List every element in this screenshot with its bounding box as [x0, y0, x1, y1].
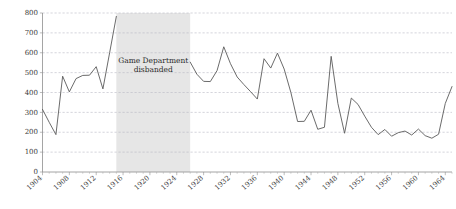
y-tick-label-300: 300: [25, 109, 38, 117]
x-tick-label-1928: 1928: [186, 174, 205, 192]
line-chart: 0100200300400500600700800 19041908191219…: [0, 0, 456, 209]
x-tick-label-1924: 1924: [159, 174, 178, 192]
y-axis-tick-labels: 0100200300400500600700800: [25, 9, 38, 176]
x-tick-label-1936: 1936: [240, 174, 259, 192]
series-line-series-1: [43, 16, 453, 138]
x-tick-label-1920: 1920: [133, 174, 152, 192]
x-axis-tick-labels: 1904190819121916192019241928193219361940…: [25, 174, 447, 192]
annotation-line-1: Game Department: [118, 56, 188, 65]
x-tick-label-1904: 1904: [25, 174, 44, 192]
x-tick-label-1964: 1964: [428, 174, 447, 192]
y-tick-label-200: 200: [25, 128, 38, 136]
y-tick-label-800: 800: [25, 9, 38, 17]
x-tick-label-1956: 1956: [374, 174, 393, 192]
x-tick-label-1952: 1952: [347, 174, 366, 192]
chart-container: 0100200300400500600700800 19041908191219…: [0, 0, 456, 209]
x-tick-label-1960: 1960: [401, 174, 420, 192]
x-tick-label-1944: 1944: [294, 174, 313, 192]
x-tick-label-1932: 1932: [213, 174, 232, 192]
annotation-line-2: disbanded: [134, 65, 173, 74]
x-tick-label-1912: 1912: [79, 174, 98, 192]
axis-tick-marks: [40, 13, 452, 175]
y-tick-label-500: 500: [25, 69, 38, 77]
y-tick-label-600: 600: [25, 49, 38, 57]
data-series-line: [43, 16, 453, 138]
x-tick-label-1940: 1940: [267, 174, 286, 192]
x-tick-label-1916: 1916: [106, 174, 125, 192]
y-tick-label-100: 100: [25, 148, 38, 156]
x-tick-label-1908: 1908: [52, 174, 71, 192]
y-tick-label-700: 700: [25, 29, 38, 37]
x-tick-label-1948: 1948: [321, 174, 340, 192]
y-tick-label-400: 400: [25, 89, 38, 97]
